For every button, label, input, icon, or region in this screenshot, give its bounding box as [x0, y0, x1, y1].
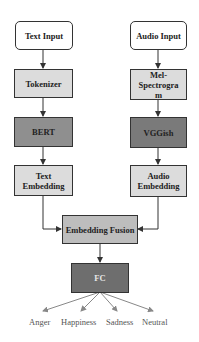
vggish-label: VGGish: [144, 128, 174, 138]
audio-embedding-node: Audio Embedding: [130, 165, 187, 197]
output-neutral: Neutral: [142, 317, 168, 327]
fc-node: FC: [71, 263, 129, 293]
output-happiness: Happiness: [61, 317, 96, 327]
vggish-node: VGGish: [130, 117, 187, 148]
text-embedding-node: Text Embedding: [14, 165, 73, 196]
text-input-node: Text Input: [15, 21, 73, 50]
fc-label: FC: [94, 273, 105, 283]
audio-input-label: Audio Input: [136, 31, 181, 41]
embedding-fusion-label: Embedding Fusion: [66, 225, 135, 235]
audio-input-node: Audio Input: [130, 21, 187, 50]
bert-label: BERT: [32, 127, 55, 137]
mel-spectrogram-label: Mel-Spectrogram: [135, 70, 182, 100]
output-sadness: Sadness: [106, 317, 133, 327]
output-anger: Anger: [29, 317, 50, 327]
mel-spectrogram-node: Mel-Spectrogram: [130, 69, 187, 100]
bert-node: BERT: [14, 117, 73, 147]
audio-embedding-label: Audio Embedding: [137, 171, 180, 191]
tokenizer-label: Tokenizer: [25, 79, 61, 89]
text-input-label: Text Input: [25, 31, 63, 41]
text-embedding-label: Text Embedding: [21, 171, 66, 191]
embedding-fusion-node: Embedding Fusion: [62, 215, 138, 244]
tokenizer-node: Tokenizer: [14, 69, 73, 98]
